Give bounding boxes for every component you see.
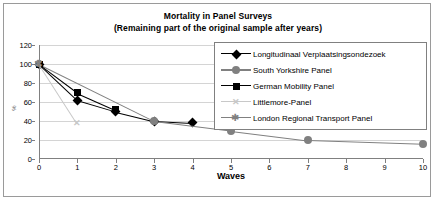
- chart-frame: Mortality in Panel Surveys (Remaining pa…: [3, 3, 431, 197]
- x-axis-tick-mark: [231, 159, 232, 163]
- chart-title: Mortality in Panel Surveys (Remaining pa…: [4, 11, 432, 34]
- y-axis-tick-label: 100: [0, 60, 32, 69]
- y-axis-tick-mark: [32, 102, 35, 103]
- legend-key: [221, 48, 251, 60]
- legend-key: [221, 64, 251, 76]
- legend-label: Littlemore-Panel: [251, 98, 311, 107]
- x-marker: ✕: [232, 98, 240, 107]
- chart-subtitle: (Remaining part of the original sample a…: [4, 23, 432, 35]
- x-axis-label: Waves: [39, 171, 423, 181]
- legend-label: Longitudinaal Verplaatsingsondezoek: [251, 50, 386, 59]
- y-axis-tick-label: 60: [0, 98, 32, 107]
- legend-key: [221, 80, 251, 92]
- x-axis-tick-mark: [308, 159, 309, 163]
- x-axis-tick-mark: [154, 159, 155, 163]
- x-axis-tick-mark: [116, 159, 117, 163]
- chart-title-main: Mortality in Panel Surveys: [4, 11, 432, 23]
- diamond-marker: [231, 49, 241, 59]
- legend-label: German Mobility Panel: [251, 82, 334, 91]
- x-axis-tick-mark: [39, 159, 40, 163]
- legend-item-1[interactable]: South Yorkshire Panel: [215, 62, 426, 78]
- y-axis-tick-label: 80: [0, 79, 32, 88]
- y-axis-tick-mark: [32, 140, 35, 141]
- chart-legend: Longitudinaal VerplaatsingsondezoekSouth…: [214, 42, 427, 130]
- legend-key: ✕: [221, 96, 251, 108]
- x-axis-tick-mark: [269, 159, 270, 163]
- y-axis-tick-mark: [32, 83, 35, 84]
- x-axis-tick-mark: [193, 159, 194, 163]
- legend-item-3[interactable]: ✕Littlemore-Panel: [215, 94, 426, 110]
- legend-item-0[interactable]: Longitudinaal Verplaatsingsondezoek: [215, 46, 426, 62]
- legend-item-4[interactable]: ✱London Regional Transport Panel: [215, 110, 426, 126]
- x-axis-tick-mark: [77, 159, 78, 163]
- legend-item-2[interactable]: German Mobility Panel: [215, 78, 426, 94]
- y-axis-tick-label: 120: [0, 41, 32, 50]
- circle-marker: [232, 66, 240, 74]
- y-axis-tick-label: 40: [0, 117, 32, 126]
- x-axis-tick-mark: [385, 159, 386, 163]
- y-axis-ticks: 020406080100120: [0, 45, 32, 159]
- x-axis-tick-mark: [346, 159, 347, 163]
- x-axis-tick-mark: [423, 159, 424, 163]
- star-marker: ✱: [231, 113, 239, 123]
- y-axis-tick-mark: [32, 159, 35, 160]
- y-axis-tick-mark: [32, 45, 35, 46]
- legend-label: London Regional Transport Panel: [251, 114, 372, 123]
- legend-key: ✱: [221, 112, 251, 124]
- y-axis-tick-label: 20: [0, 136, 32, 145]
- square-marker: [233, 83, 240, 90]
- legend-label: South Yorkshire Panel: [251, 66, 332, 75]
- y-axis-tick-mark: [32, 121, 35, 122]
